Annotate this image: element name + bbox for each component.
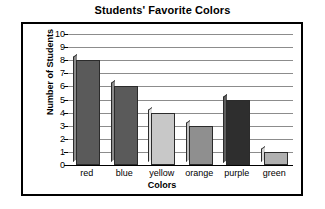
bar[interactable]	[148, 110, 175, 165]
y-tick-label: 2	[60, 134, 65, 143]
bar[interactable]	[111, 83, 138, 165]
bar-front-face	[189, 126, 213, 165]
plot-area: 012345678910	[68, 34, 293, 165]
gridline	[68, 34, 293, 35]
bar-front-face	[226, 100, 250, 166]
gridline	[68, 73, 293, 74]
bar-front-face	[264, 152, 288, 165]
y-tick-label: 5	[60, 95, 65, 104]
gridline	[68, 100, 293, 101]
gridline	[68, 113, 293, 114]
y-tick-label: 8	[60, 56, 65, 65]
x-tick-label: green	[244, 168, 304, 178]
chart-figure: Students' Favorite Colors Number of Stud…	[0, 0, 325, 209]
gridline	[68, 152, 293, 153]
gridline	[68, 139, 293, 140]
y-tick-label: 9	[60, 43, 65, 52]
y-tick-label: 1	[60, 147, 65, 156]
bar[interactable]	[223, 97, 250, 166]
y-tick-label: 4	[60, 108, 65, 117]
y-tick-label: 6	[60, 82, 65, 91]
y-tick-label: 3	[60, 121, 65, 130]
gridline	[68, 126, 293, 127]
bar[interactable]	[186, 123, 213, 165]
gridline	[68, 86, 293, 87]
x-axis-title: Colors	[23, 180, 301, 190]
gridline	[68, 60, 293, 61]
bar[interactable]	[73, 57, 100, 165]
bar-front-face	[151, 113, 175, 165]
bar-front-face	[76, 60, 100, 165]
y-tick-label: 7	[60, 69, 65, 78]
chart-title: Students' Favorite Colors	[0, 4, 325, 16]
chart-frame: Number of Students 012345678910 redbluey…	[21, 22, 303, 196]
y-tick-label: 10	[55, 30, 65, 39]
bar[interactable]	[261, 149, 288, 165]
x-axis-line	[68, 165, 293, 166]
gridline	[68, 47, 293, 48]
bar-front-face	[114, 86, 138, 165]
